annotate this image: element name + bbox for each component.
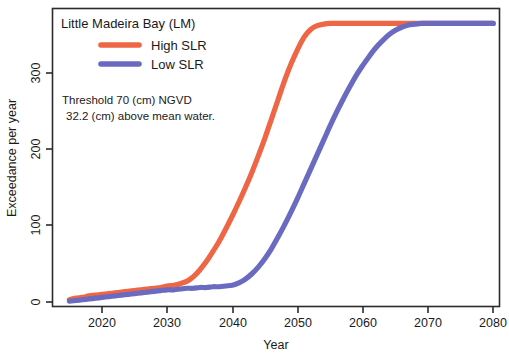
y-tick-label: 200 — [29, 139, 43, 160]
plot-title: Little Madeira Bay (LM) — [61, 16, 195, 31]
y-tick-label: 300 — [29, 63, 43, 84]
x-tick-label: 2030 — [153, 316, 181, 330]
exceedance-chart: 0 100 200 300 Exceedance per year 2020 2… — [0, 0, 509, 355]
x-tick-label: 2070 — [414, 316, 442, 330]
y-tick-label: 100 — [29, 215, 43, 236]
annotation-line-2: 32.2 (cm) above mean water. — [66, 110, 215, 122]
annotation-line-1: Threshold 70 (cm) NGVD — [62, 94, 192, 106]
x-tick-label: 2060 — [349, 316, 377, 330]
y-tick-label: 0 — [29, 298, 43, 305]
x-tick-label: 2080 — [479, 316, 507, 330]
x-tick-label: 2020 — [88, 316, 116, 330]
x-tick-label: 2040 — [219, 316, 247, 330]
x-tick-label: 2050 — [284, 316, 312, 330]
x-axis-title: Year — [263, 338, 288, 352]
y-axis-title: Exceedance per year — [5, 99, 19, 217]
legend-label-low-slr: Low SLR — [151, 57, 204, 72]
legend-label-high-slr: High SLR — [151, 38, 207, 53]
